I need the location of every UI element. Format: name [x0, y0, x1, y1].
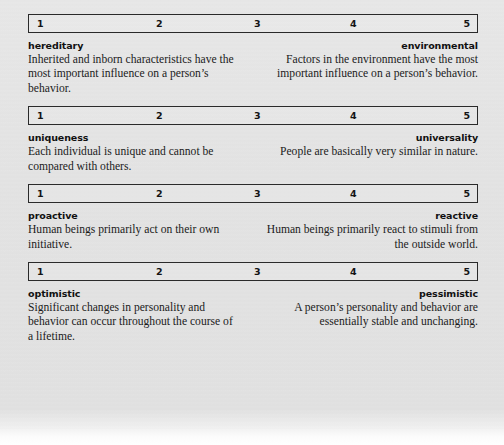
dimension-block-proactive-reactive: 1 2 3 4 5 proactive Human beings primari…	[28, 184, 478, 252]
scale-tick-5[interactable]: 5	[463, 267, 470, 277]
dimension-block-uniqueness-universality: 1 2 3 4 5 uniqueness Each individual is …	[28, 106, 478, 174]
pole-description-left: Inherited and inborn characteristics hav…	[28, 53, 240, 96]
rating-scale-bar[interactable]: 1 2 3 4 5	[28, 14, 478, 33]
pole-label-right: reactive	[267, 210, 479, 222]
rating-scale-bar[interactable]: 1 2 3 4 5	[28, 262, 478, 281]
scale-tick-4[interactable]: 4	[350, 19, 357, 29]
scale-tick-3[interactable]: 3	[254, 111, 261, 121]
scale-tick-3[interactable]: 3	[254, 267, 261, 277]
scale-tick-4[interactable]: 4	[350, 111, 357, 121]
pole-pair: proactive Human beings primarily act on …	[28, 210, 478, 252]
rating-scale-bar[interactable]: 1 2 3 4 5	[28, 184, 478, 203]
rating-scale-bar[interactable]: 1 2 3 4 5	[28, 106, 478, 125]
pole-left: proactive Human beings primarily act on …	[28, 210, 240, 252]
scale-tick-5[interactable]: 5	[463, 19, 470, 29]
dimensions-sheet: 1 2 3 4 5 hereditary Inherited and inbor…	[0, 0, 504, 344]
pole-label-right: universality	[267, 132, 479, 144]
pole-label-right: pessimistic	[267, 288, 479, 300]
scale-tick-1[interactable]: 1	[37, 189, 44, 199]
pole-description-right: Human beings primarily react to stimuli …	[267, 223, 479, 252]
pole-right: reactive Human beings primarily react to…	[267, 210, 479, 252]
pole-pair: uniqueness Each individual is unique and…	[28, 132, 478, 174]
pole-left: hereditary Inherited and inborn characte…	[28, 40, 240, 96]
dimension-block-optimistic-pessimistic: 1 2 3 4 5 optimistic Significant changes…	[28, 262, 478, 344]
pole-label-left: proactive	[28, 210, 240, 222]
pole-label-left: hereditary	[28, 40, 240, 52]
scale-tick-1[interactable]: 1	[37, 111, 44, 121]
pole-label-right: environmental	[267, 40, 479, 52]
page-bottom-margin	[0, 429, 504, 445]
pole-label-left: optimistic	[28, 288, 240, 300]
dimension-block-hereditary-environmental: 1 2 3 4 5 hereditary Inherited and inbor…	[28, 14, 478, 96]
scale-tick-2[interactable]: 2	[156, 19, 163, 29]
scale-tick-5[interactable]: 5	[463, 189, 470, 199]
pole-left: optimistic Significant changes in person…	[28, 288, 240, 344]
pole-description-left: Each individual is unique and cannot be …	[28, 145, 240, 174]
pole-pair: optimistic Significant changes in person…	[28, 288, 478, 344]
pole-description-right: A person’s personality and behavior are …	[267, 301, 479, 330]
pole-label-left: uniqueness	[28, 132, 240, 144]
pole-left: uniqueness Each individual is unique and…	[28, 132, 240, 174]
pole-description-left: Significant changes in personality and b…	[28, 301, 240, 344]
scale-tick-4[interactable]: 4	[350, 267, 357, 277]
pole-description-right: Factors in the environment have the most…	[267, 53, 479, 82]
scale-tick-3[interactable]: 3	[254, 19, 261, 29]
pole-description-left: Human beings primarily act on their own …	[28, 223, 240, 252]
scale-tick-2[interactable]: 2	[156, 267, 163, 277]
scale-tick-4[interactable]: 4	[350, 189, 357, 199]
pole-description-right: People are basically very similar in nat…	[267, 145, 479, 159]
pole-right: universality People are basically very s…	[267, 132, 479, 159]
pole-right: environmental Factors in the environment…	[267, 40, 479, 82]
scale-tick-1[interactable]: 1	[37, 19, 44, 29]
scale-tick-5[interactable]: 5	[463, 111, 470, 121]
pole-pair: hereditary Inherited and inborn characte…	[28, 40, 478, 96]
scale-tick-3[interactable]: 3	[254, 189, 261, 199]
scale-tick-2[interactable]: 2	[156, 189, 163, 199]
scale-tick-2[interactable]: 2	[156, 111, 163, 121]
pole-right: pessimistic A person’s personality and b…	[267, 288, 479, 330]
scale-tick-1[interactable]: 1	[37, 267, 44, 277]
